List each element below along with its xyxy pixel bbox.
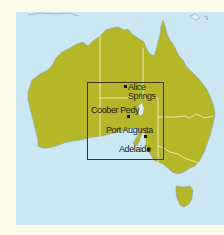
tasmania <box>176 186 193 207</box>
alice-springs-label-line2: Springs <box>128 91 156 101</box>
alice-springs-label: Alice Springs <box>128 83 156 101</box>
islands-north <box>190 14 208 20</box>
australia-map <box>16 12 224 225</box>
coober-pedy-label: Coober Pedy <box>91 106 139 115</box>
port-augusta-dot <box>144 135 147 138</box>
coober-pedy-dot <box>127 115 130 118</box>
map-frame <box>16 12 224 225</box>
islands-north-west <box>28 13 78 16</box>
port-augusta-label: Port Augusta <box>106 126 153 135</box>
adelaide-label: Adelaide <box>119 145 151 154</box>
alice-springs-dot <box>124 85 127 88</box>
